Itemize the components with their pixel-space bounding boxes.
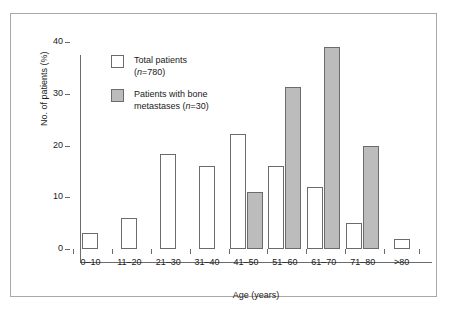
legend-label-total-patients-line1: Total patients xyxy=(134,54,187,66)
bar-total-11–20 xyxy=(121,218,137,249)
bar-mets-41–50 xyxy=(247,192,263,249)
y-tick-10 xyxy=(65,197,70,198)
x-tick-11–20 xyxy=(112,249,113,254)
x-tick-label-0–10: 0–10 xyxy=(71,257,110,267)
figure-container: 010203040 0–1011–2021–3031–4041–5051–606… xyxy=(0,0,453,314)
bar-total-71–80 xyxy=(346,223,362,249)
x-tick-label-41–50: 41–50 xyxy=(227,257,266,267)
legend-label-bone-metastases: Patients with bone metastases (n=30) xyxy=(134,88,209,112)
legend-label-bone-metastases-line2: metastases (n=30) xyxy=(134,100,209,112)
y-axis-title: No. of patients (%) xyxy=(39,112,49,126)
x-tick-label-51–60: 51–60 xyxy=(265,257,304,267)
bar-total-51–60 xyxy=(268,166,284,249)
bar-total-31–40 xyxy=(199,166,215,249)
bar-total->80 xyxy=(394,239,410,249)
legend-label-total-patients-line2: (n=780) xyxy=(134,66,187,78)
bar-total-41–50 xyxy=(230,134,246,249)
bar-total-61–70 xyxy=(307,187,323,249)
legend-swatch-total-patients xyxy=(111,55,124,68)
x-tick-label->80: >80 xyxy=(382,257,421,267)
bar-mets-51–60 xyxy=(285,87,301,249)
y-tick-0 xyxy=(65,249,70,250)
legend-swatch-bone-metastases xyxy=(111,89,124,102)
x-tick-label-71–80: 71–80 xyxy=(343,257,382,267)
figure-frame: 010203040 0–1011–2021–3031–4041–5051–606… xyxy=(10,13,437,297)
legend-item-total-patients: Total patients (n=780) xyxy=(111,54,209,78)
y-tick-label-10: 10 xyxy=(45,192,63,201)
bar-total-0–10 xyxy=(82,233,98,249)
legend-label-bone-metastases-line1: Patients with bone xyxy=(134,88,209,100)
y-tick-label-20: 20 xyxy=(45,141,63,150)
x-tick-41–50 xyxy=(229,249,230,254)
y-tick-40 xyxy=(65,42,70,43)
legend-item-bone-metastases: Patients with bone metastases (n=30) xyxy=(111,88,209,112)
x-tick-71–80 xyxy=(345,249,346,254)
x-tick-end xyxy=(419,249,420,254)
y-tick-label-0: 0 xyxy=(45,244,63,253)
x-tick-label-21–30: 21–30 xyxy=(149,257,188,267)
x-tick->80 xyxy=(384,249,385,254)
x-tick-label-31–40: 31–40 xyxy=(188,257,227,267)
bar-total-21–30 xyxy=(160,154,176,249)
x-tick-51–60 xyxy=(267,249,268,254)
bar-mets-61–70 xyxy=(324,47,340,249)
y-tick-30 xyxy=(65,94,70,95)
y-axis-line xyxy=(80,55,81,263)
bar-mets-71–80 xyxy=(363,146,379,250)
legend-label-total-patients: Total patients (n=780) xyxy=(134,54,187,78)
x-tick-31–40 xyxy=(190,249,191,254)
x-tick-61–70 xyxy=(306,249,307,254)
x-tick-label-61–70: 61–70 xyxy=(304,257,343,267)
x-tick-0–10 xyxy=(73,249,74,254)
chart-legend: Total patients (n=780) Patients with bon… xyxy=(111,54,209,122)
y-tick-label-40: 40 xyxy=(45,37,63,46)
x-axis-title: Age (years) xyxy=(81,290,431,300)
x-tick-21–30 xyxy=(151,249,152,254)
y-tick-20 xyxy=(65,146,70,147)
x-tick-label-11–20: 11–20 xyxy=(110,257,149,267)
